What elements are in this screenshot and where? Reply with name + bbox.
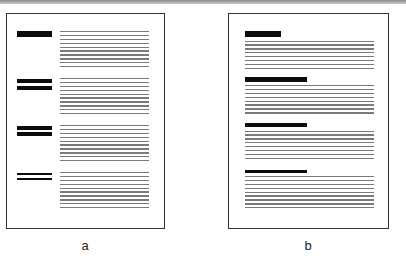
text-line	[60, 133, 149, 134]
text-lines	[60, 78, 149, 117]
text-line	[245, 89, 374, 90]
text-line	[60, 156, 149, 157]
heading-bar	[17, 178, 52, 180]
text-line	[245, 154, 374, 155]
text-lines	[60, 172, 149, 211]
text-line	[245, 85, 374, 86]
text-line	[60, 176, 149, 177]
text-line	[245, 108, 374, 109]
text-line	[60, 148, 149, 149]
text-line	[60, 101, 149, 102]
text-line	[60, 141, 149, 142]
text-lines	[245, 131, 374, 162]
text-line	[60, 66, 149, 67]
text-line	[245, 158, 374, 159]
heading-bar	[245, 123, 307, 127]
text-line	[60, 47, 149, 48]
text-line	[60, 144, 149, 145]
text-line	[245, 44, 374, 45]
text-line	[245, 150, 374, 151]
text-line	[245, 52, 374, 53]
text-line	[60, 62, 149, 63]
text-line	[60, 195, 149, 196]
text-line	[245, 176, 374, 177]
text-line	[245, 184, 374, 185]
text-line	[245, 56, 374, 57]
heading-bar	[245, 31, 281, 37]
text-line	[245, 203, 374, 204]
heading-bar	[245, 170, 307, 173]
heading-bars	[17, 31, 52, 40]
heading-bars	[245, 77, 307, 82]
heading-bars	[245, 123, 307, 127]
text-line	[245, 199, 374, 200]
text-line	[245, 188, 374, 189]
text-line	[60, 113, 149, 114]
text-line	[60, 94, 149, 95]
text-line	[60, 39, 149, 40]
text-line	[60, 31, 149, 32]
text-line	[245, 60, 374, 61]
heading-bar	[17, 126, 52, 130]
heading-bars	[245, 31, 281, 37]
text-line	[60, 137, 149, 138]
page-layout-b	[228, 13, 389, 229]
text-line	[60, 180, 149, 181]
heading-bar	[17, 31, 52, 37]
heading-bar	[17, 132, 52, 136]
heading-bar	[17, 173, 52, 175]
text-lines	[60, 31, 149, 70]
panel-label-b: b	[298, 238, 318, 253]
text-line	[60, 188, 149, 189]
text-line	[60, 129, 149, 130]
text-line	[60, 50, 149, 51]
text-line	[60, 82, 149, 83]
text-line	[245, 138, 374, 139]
text-line	[245, 48, 374, 49]
text-line	[245, 64, 374, 65]
text-line	[60, 35, 149, 36]
text-line	[245, 93, 374, 94]
text-line	[60, 86, 149, 87]
text-line	[245, 207, 374, 208]
text-line	[245, 101, 374, 102]
top-scan-strip	[0, 0, 406, 4]
text-line	[245, 68, 374, 69]
text-line	[60, 207, 149, 208]
text-line	[245, 195, 374, 196]
heading-bars	[17, 79, 52, 90]
text-line	[60, 90, 149, 91]
text-line	[60, 172, 149, 173]
text-line	[245, 41, 374, 42]
text-line	[60, 54, 149, 55]
text-line	[60, 203, 149, 204]
text-line	[245, 142, 374, 143]
text-lines	[245, 176, 374, 211]
text-line	[60, 125, 149, 126]
text-line	[245, 104, 374, 105]
text-line	[245, 112, 374, 113]
text-line	[245, 180, 374, 181]
heading-bar	[17, 86, 52, 90]
text-line	[245, 192, 374, 193]
text-line	[60, 105, 149, 106]
text-line	[60, 97, 149, 98]
text-line	[245, 131, 374, 132]
text-lines	[60, 125, 149, 164]
text-line	[60, 152, 149, 153]
text-line	[60, 160, 149, 161]
heading-bars	[17, 173, 52, 180]
text-lines	[245, 41, 374, 72]
text-line	[60, 43, 149, 44]
text-line	[245, 146, 374, 147]
text-line	[60, 199, 149, 200]
text-line	[60, 191, 149, 192]
heading-bar	[17, 79, 52, 83]
text-line	[60, 78, 149, 79]
text-line	[60, 58, 149, 59]
text-line	[60, 109, 149, 110]
heading-bar	[245, 77, 307, 82]
heading-bars	[17, 126, 52, 136]
text-line	[60, 184, 149, 185]
text-line	[245, 97, 374, 98]
